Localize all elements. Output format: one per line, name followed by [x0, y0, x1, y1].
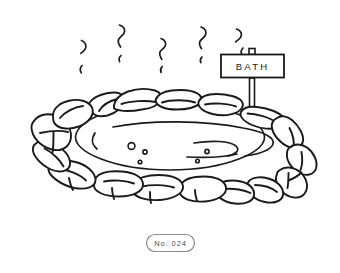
steam-wisp-3 [160, 39, 166, 73]
illustration-canvas: BATH [0, 0, 340, 273]
sign-label: BATH [236, 61, 269, 72]
bath-line-drawing: BATH [0, 0, 340, 273]
steam-wisp-2 [118, 25, 124, 62]
steam-wisp-5 [236, 29, 243, 54]
steam-wisp-4 [199, 27, 206, 63]
steam-wisps [80, 25, 243, 73]
rock-right-1 [272, 116, 303, 147]
bubble-3 [138, 160, 142, 164]
bubble-2 [143, 150, 147, 154]
bubble-4 [205, 149, 209, 153]
caption-label: No. 024 [154, 239, 187, 248]
illustration-number-badge: No. 024 [147, 235, 195, 252]
steam-wisp-1 [80, 41, 86, 73]
sign-post [250, 78, 255, 110]
sign-top-tab [249, 49, 255, 55]
rock-bottom-3 [180, 177, 226, 202]
rock-top-3 [156, 90, 202, 109]
rock-top-4 [198, 94, 243, 115]
bubble-5 [196, 159, 200, 163]
bubble-1 [128, 143, 135, 150]
